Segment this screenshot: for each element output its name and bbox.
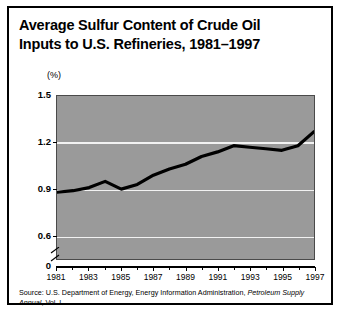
x-tick-1997 bbox=[315, 267, 316, 271]
figure-container: Average Sulfur Content of Crude Oil Inpu… bbox=[7, 6, 333, 305]
x-tick-1995 bbox=[283, 267, 284, 271]
y-tick-label-1-2: 1.2 bbox=[21, 136, 51, 147]
x-tick-1983 bbox=[88, 267, 89, 271]
x-tick-1991 bbox=[218, 267, 219, 271]
x-minor-tick-1988 bbox=[169, 267, 170, 270]
x-minor-tick-1982 bbox=[72, 267, 73, 270]
y-tick-label-0: 0 bbox=[21, 260, 51, 271]
title-line-2: Inputs to U.S. Refineries, 1981–1997 bbox=[19, 35, 325, 54]
x-tick-1981 bbox=[56, 267, 57, 271]
x-minor-tick-1990 bbox=[202, 267, 203, 270]
x-tick-1985 bbox=[121, 267, 122, 271]
x-minor-tick-1986 bbox=[137, 267, 138, 270]
data-line-series bbox=[57, 96, 314, 259]
x-tick-1989 bbox=[186, 267, 187, 271]
y-axis-break-icon bbox=[50, 247, 64, 263]
y-tick-mark bbox=[53, 142, 57, 143]
title-line-1: Average Sulfur Content of Crude Oil bbox=[19, 16, 325, 35]
y-tick-mark bbox=[53, 189, 57, 190]
y-tick-label-0-9: 0.9 bbox=[21, 183, 51, 194]
y-tick-mark bbox=[53, 236, 57, 237]
x-minor-tick-1996 bbox=[299, 267, 300, 270]
x-minor-tick-1984 bbox=[105, 267, 106, 270]
source-prefix: Source: U.S. Department of Energy, Energ… bbox=[19, 288, 247, 297]
x-minor-tick-1992 bbox=[234, 267, 235, 270]
x-minor-tick-1994 bbox=[266, 267, 267, 270]
plot-area bbox=[56, 95, 315, 260]
source-note: Source: U.S. Department of Energy, Energ… bbox=[19, 288, 319, 307]
source-suffix: , Vol. I. bbox=[41, 298, 63, 307]
y-tick-label-1-5: 1.5 bbox=[21, 89, 51, 100]
x-tick-1987 bbox=[153, 267, 154, 271]
x-tick-label-1997: 1997 bbox=[295, 272, 335, 282]
y-tick-label-0-6: 0.6 bbox=[21, 230, 51, 241]
chart-title: Average Sulfur Content of Crude Oil Inpu… bbox=[19, 16, 325, 54]
x-tick-1993 bbox=[250, 267, 251, 271]
y-axis-labels: 0.60.91.21.50 bbox=[17, 8, 51, 311]
